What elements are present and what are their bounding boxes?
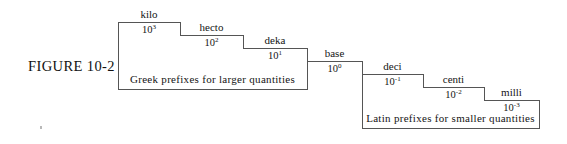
step-value-kilo-exponent: 3 (153, 23, 157, 31)
step-label-deka: deka (243, 34, 307, 46)
step-value-deka: 101 (243, 50, 307, 61)
step-value-deci: 10-1 (362, 76, 423, 87)
step-value-kilo-base: 10 (142, 24, 153, 35)
step-value-deka-exponent: 1 (279, 49, 283, 57)
figure-container: FIGURE 10-2 kilo hecto deka base deci ce… (0, 0, 567, 144)
step-value-centi: 10-2 (423, 89, 484, 100)
step-value-deci-base: 10 (384, 76, 395, 87)
step-value-milli-exponent: -3 (514, 101, 520, 109)
step-label-base: base (307, 47, 362, 59)
step-label-centi: centi (423, 73, 484, 85)
greek-box-caption: Greek prefixes for larger quantities (118, 73, 307, 85)
step-value-deci-exponent: -1 (395, 75, 401, 83)
step-value-base-base: 10 (328, 63, 339, 74)
step-value-kilo: 103 (118, 24, 180, 35)
step-value-centi-exponent: -2 (456, 88, 462, 96)
step-value-base: 100 (307, 63, 362, 74)
step-label-milli: milli (484, 86, 539, 98)
step-value-centi-base: 10 (445, 89, 456, 100)
step-value-deka-base: 10 (268, 50, 279, 61)
step-label-kilo: kilo (118, 8, 180, 20)
latin-box-caption: Latin prefixes for smaller quantities (362, 112, 539, 124)
step-value-hecto-base: 10 (205, 37, 216, 48)
step-label-deci: deci (362, 60, 423, 72)
step-value-hecto: 102 (180, 37, 243, 48)
step-value-hecto-exponent: 2 (215, 36, 219, 44)
step-value-base-exponent: 0 (338, 62, 342, 70)
step-label-hecto: hecto (180, 21, 243, 33)
